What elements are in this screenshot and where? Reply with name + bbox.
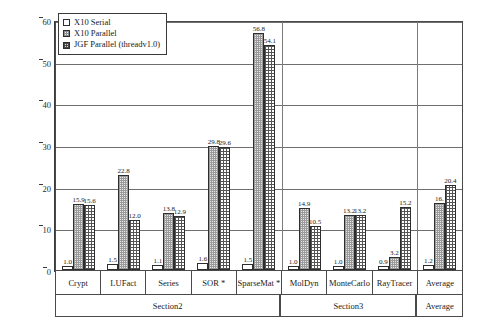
bar: 12.0 <box>129 220 140 270</box>
bar-value-label: 15.6 <box>83 198 95 205</box>
bar-value-label: 15.2 <box>399 200 411 207</box>
bar-value-label: 56.8 <box>253 26 265 33</box>
bar: 15.9 <box>73 204 84 270</box>
bar-group: 1.216.20.4 <box>417 22 462 270</box>
bar-groups: 1.015.915.61.522.812.01.113.812.91.629.8… <box>56 22 462 270</box>
category-label: SOR * <box>192 271 237 294</box>
bar-value-label: 3.2 <box>390 250 399 257</box>
bar-group: 1.013.213.2 <box>327 22 372 270</box>
category-label: Crypt <box>56 271 101 294</box>
bar: 1.5 <box>107 264 118 270</box>
bar: 20.4 <box>445 185 456 270</box>
legend-swatch-jgf-parallel <box>63 42 70 49</box>
bar-group: 1.014.910.5 <box>282 22 327 270</box>
bar: 1.6 <box>197 263 208 270</box>
bar: 29.6 <box>219 147 230 270</box>
bar: 1.0 <box>62 266 73 270</box>
bar-value-label: 1.5 <box>244 257 253 264</box>
bar-value-label: 14.9 <box>298 201 310 208</box>
legend-label-x10-parallel: X10 Parallel <box>74 28 117 39</box>
bar: 12.9 <box>174 216 185 270</box>
bar: 0.9 <box>378 266 389 270</box>
bar: 13.2 <box>355 215 366 270</box>
bar-value-label: 1.5 <box>108 257 117 264</box>
bar: 1.0 <box>288 266 299 270</box>
bar: 14.9 <box>299 208 310 270</box>
bar-group: 1.522.812.0 <box>101 22 146 270</box>
bar-value-label: 1.0 <box>334 259 343 266</box>
y-tick-mark <box>39 59 43 60</box>
bar-value-label: 1.0 <box>63 259 72 266</box>
plot-area: 1.015.915.61.522.812.01.113.812.91.629.8… <box>55 21 463 271</box>
bar-group: 1.556.854.1 <box>236 22 281 270</box>
bar: 16. <box>434 203 445 270</box>
bar: 29.8 <box>208 146 219 270</box>
section-label: Average <box>416 295 463 317</box>
category-label: SparseMat * <box>237 271 282 294</box>
bar-value-label: 16. <box>435 196 444 203</box>
bar: 1.1 <box>152 265 163 270</box>
bar-group: 0.93.215.2 <box>372 22 417 270</box>
y-tick-label: 10 <box>43 225 52 235</box>
chart-figure: Speedup w.r.t. JGF serial (v2.0) 1.015.9… <box>0 0 484 329</box>
bar: 10.5 <box>310 226 321 270</box>
bar-value-label: 1.1 <box>153 258 162 265</box>
bar-value-label: 1.0 <box>289 259 298 266</box>
bar: 54.1 <box>264 45 275 270</box>
bar-value-label: 1.6 <box>199 256 208 263</box>
bar-value-label: 0.9 <box>379 259 388 266</box>
category-label: MonteCarlo <box>327 271 372 294</box>
y-tick-label: 50 <box>43 59 52 69</box>
y-tick-mark <box>43 267 47 268</box>
section-label: Section2 <box>55 295 280 317</box>
category-axis: CryptLUFactSeriesSOR *SparseMat *MolDynM… <box>55 271 463 295</box>
category-label: LUFact <box>101 271 146 294</box>
bar: 56.8 <box>253 33 264 270</box>
bar-value-label: 1.2 <box>424 258 433 265</box>
section-label: Section3 <box>280 295 416 317</box>
bar-value-label: 12.9 <box>174 209 186 216</box>
category-label: MolDyn <box>282 271 327 294</box>
bar: 1.2 <box>423 265 434 270</box>
section-axis: Section2Section3Average <box>55 295 463 317</box>
bar: 3.2 <box>389 257 400 270</box>
y-tick-mark <box>39 100 43 101</box>
legend-swatch-x10-serial <box>63 19 70 26</box>
category-label: Series <box>146 271 191 294</box>
bar: 1.5 <box>242 264 253 270</box>
bar: 22.8 <box>118 175 129 270</box>
category-label: Average <box>418 271 462 294</box>
bar-group: 1.015.915.6 <box>56 22 101 270</box>
y-tick-mark <box>39 184 43 185</box>
bar-value-label: 10.5 <box>309 219 321 226</box>
category-label: RayTracer <box>373 271 418 294</box>
y-tick-label: 30 <box>43 142 52 152</box>
y-tick-label: 40 <box>43 100 52 110</box>
bar: 15.6 <box>84 205 95 270</box>
y-tick-mark <box>39 225 43 226</box>
y-tick-label: 60 <box>43 17 52 27</box>
y-tick-label: 0 <box>47 267 51 277</box>
y-tick-mark <box>39 17 43 18</box>
bar-value-label: 29.6 <box>219 140 231 147</box>
bar-value-label: 12.0 <box>129 213 141 220</box>
y-tick-mark <box>39 142 43 143</box>
legend-item-jgf-parallel: JGF Parallel (threadv1.0) <box>63 39 160 50</box>
chart-legend: X10 Serial X10 Parallel JGF Parallel (th… <box>58 13 167 55</box>
bar: 1.0 <box>333 266 344 270</box>
bar-value-label: 20.4 <box>444 178 456 185</box>
legend-swatch-x10-parallel <box>63 30 70 37</box>
legend-item-x10-parallel: X10 Parallel <box>63 28 160 39</box>
bar-value-label: 13.2 <box>354 208 366 215</box>
y-tick-label: 20 <box>43 184 52 194</box>
bar: 13.2 <box>344 215 355 270</box>
bar: 15.2 <box>400 207 411 270</box>
bar-group: 1.113.812.9 <box>146 22 191 270</box>
legend-label-x10-serial: X10 Serial <box>74 17 111 28</box>
bar-value-label: 54.1 <box>264 38 276 45</box>
legend-label-jgf-parallel: JGF Parallel (threadv1.0) <box>74 39 160 50</box>
bar: 13.8 <box>163 213 174 271</box>
legend-item-x10-serial: X10 Serial <box>63 17 160 28</box>
bar-group: 1.629.829.6 <box>191 22 236 270</box>
bar-value-label: 22.8 <box>118 168 130 175</box>
